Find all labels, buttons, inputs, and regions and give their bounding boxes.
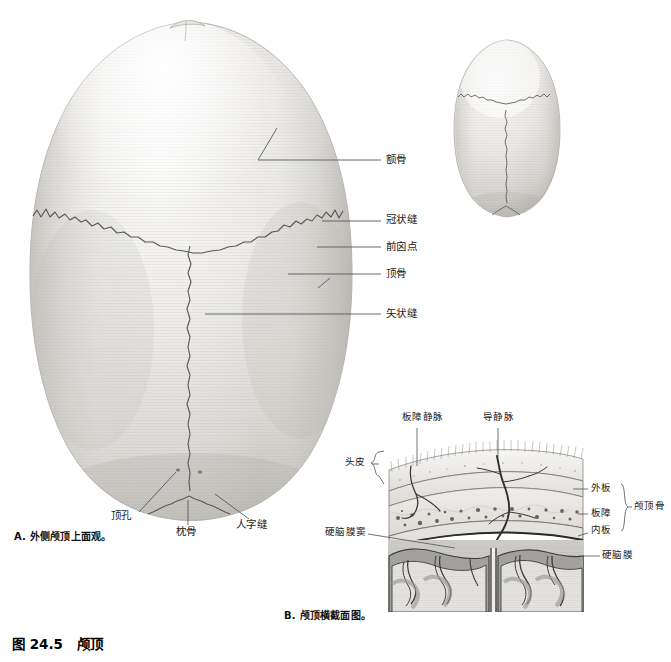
illustration-layer [0,0,671,662]
parietal-foramen-right [198,471,202,474]
coronal-suture-line [33,209,343,253]
caption-panel-b: B. 颅顶横截面图。 [284,607,371,622]
figure-title: 图 24.5颅顶 [12,633,103,653]
label-diploe: 板障 [591,508,612,519]
dural-venous-sinus [470,547,515,568]
scalp-layer [389,450,583,491]
dura-mater-line [389,533,583,547]
figure-page: 额骨 冠状缝 前囟点 顶骨 矢状缝 顶孔 枕骨 人字缝 板障静脉 导静脉 头皮 … [0,0,671,662]
diploe-layer [389,488,583,536]
sagittal-suture-line [187,246,191,491]
label-bregma: 前囟点 [386,240,417,252]
panel-a-skull-superior [20,14,381,557]
outer-table-layer [389,472,583,506]
label-dura-mater: 硬脑膜 [602,550,633,561]
label-scalp: 头皮 [345,457,366,468]
frontal-notch [170,21,205,28]
caption-panel-a: A. 外侧颅顶上面观。 [14,528,111,543]
arachnoid-granulation-mid [488,562,496,570]
emissary-vein [492,456,509,551]
label-sagittal-suture: 矢状缝 [386,307,417,319]
brain-section [388,540,584,612]
arachnoid-granulation-right [516,550,524,558]
panel-b-cross-section [368,428,632,612]
figure-number: 图 24.5 [12,636,63,652]
label-diploic-vein: 板障静脉 [402,412,443,423]
orientation-thumbnail [450,36,566,228]
label-parietal-foramen: 顶孔 [111,509,132,521]
label-occipital-bone: 枕骨 [176,525,197,537]
parietal-foramen-left [176,469,180,472]
label-frontal-bone: 额骨 [386,153,407,165]
lambdoid-suture-line [148,496,189,514]
label-inner-table: 内板 [591,525,612,536]
label-calvaria: 颅顶骨 [634,501,665,512]
arachnoid-granulation-left [461,550,470,559]
label-dural-venous-sinus: 硬脑膜窦 [325,527,366,538]
inner-table-layer [389,521,583,547]
figure-title-text: 颅顶 [77,636,103,652]
diploic-vein-network [402,466,440,518]
label-lambdoid-suture: 人字缝 [236,518,267,530]
label-coronal-suture: 冠状缝 [386,213,417,225]
label-emissary-vein: 导静脉 [483,412,514,423]
label-parietal-bone: 顶骨 [386,267,407,279]
label-outer-table: 外板 [591,483,612,494]
